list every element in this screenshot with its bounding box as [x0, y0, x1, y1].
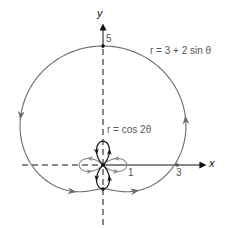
limacon-equation: r = 3 + 2 sin θ [150, 46, 211, 56]
point-y5 [101, 44, 105, 48]
rose-equation: r = cos 2θ [107, 125, 151, 135]
label-1: 1 [128, 168, 134, 178]
polar-diagram [0, 0, 229, 228]
direction-arrows [18, 111, 189, 196]
y-axis-label: y [97, 8, 103, 19]
x-axis-label: x [209, 158, 215, 169]
label-3: 3 [176, 168, 182, 178]
label-5: 5 [106, 34, 112, 44]
point-origin [101, 163, 105, 167]
point-bottom [101, 187, 105, 191]
